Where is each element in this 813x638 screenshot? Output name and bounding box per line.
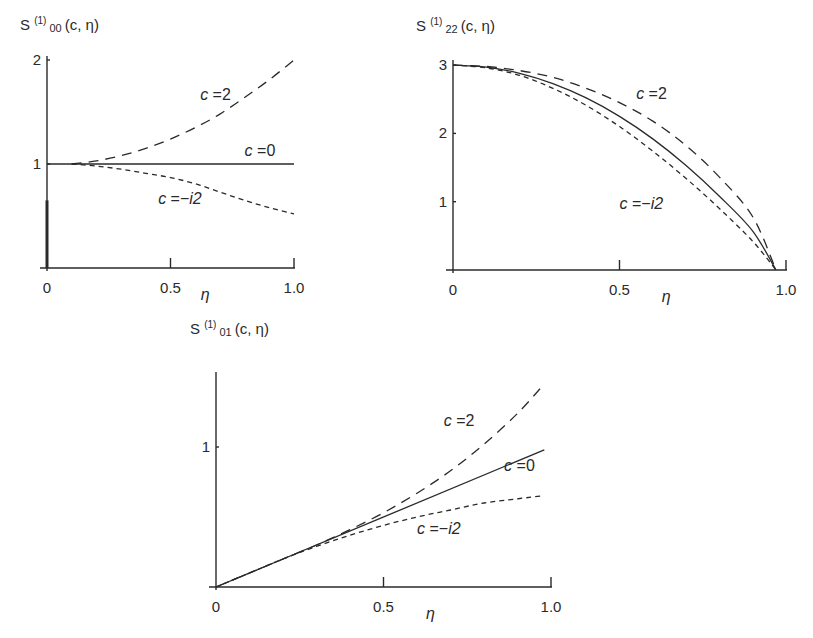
x-axis-label: η [426,605,435,622]
chart-s22: S (1) 22 (c, η)00.51.0η123c =2c =−i2 [416,16,796,305]
series-line-c-2 [216,384,544,587]
curve-label-part: =2 [452,412,475,429]
series-line-c-0 [453,65,776,270]
curve-label: c =0 [504,457,535,474]
curve-label-part: =0 [253,142,276,159]
series-line-c-i2 [216,496,541,587]
title-args: (c, η) [235,320,269,337]
chart-title: S (1) 01 (c, η) [190,319,269,338]
x-tick-label: 1.0 [284,279,305,296]
series-line-c-2 [453,65,776,270]
curve-label-part: c [620,195,628,212]
curve-label-part: =2 [644,85,667,102]
chart-title: S (1) 22 (c, η) [416,16,495,35]
x-axis-label: η [201,286,210,303]
x-tick-label: 1.0 [541,598,562,615]
curve-label-part: 2 [192,190,202,207]
curve-label: c =2 [200,86,231,103]
series-line-c-i2 [453,65,776,270]
x-tick-label: 0.5 [609,281,630,298]
chart-s01: S (1) 01 (c, η)00.51.0η1c =2c =0c =−i2 [190,319,561,622]
curve-label-part: c [245,142,253,159]
curve-label: c =0 [245,142,276,159]
title-base: S [416,17,430,34]
curve-label-part: =− [166,190,189,207]
curve-label-part: 2 [451,520,461,537]
curve-label-part: =− [425,520,448,537]
series-line-c-0 [216,450,544,587]
curve-label-part: c [200,86,208,103]
curve-label: c =−i2 [620,195,664,212]
title-superscript: (1) [430,16,442,27]
y-tick-label: 1 [202,438,210,455]
title-base: S [190,320,204,337]
x-tick-label: 0 [449,281,457,298]
title-args: (c, η) [461,17,495,34]
figure: S (1) 00 (c, η)00.51.0η12c =2c =0c =−i2S… [0,0,813,638]
curve-label-part: c [636,85,644,102]
y-tick-label: 1 [33,155,41,172]
title-args: (c, η) [65,16,99,33]
curve-label: c =−i2 [158,190,202,207]
title-subscript: 01 [216,326,234,338]
x-tick-label: 1.0 [776,281,797,298]
curve-label-part: =0 [512,457,535,474]
title-base: S [20,16,34,33]
x-axis-label: η [662,288,671,305]
x-tick-label: 0.5 [160,279,181,296]
curve-label-part: c [444,412,452,429]
chart-title: S (1) 00 (c, η) [20,15,99,34]
title-superscript: (1) [34,15,46,26]
y-tick-label: 2 [439,124,447,141]
curve-label: c =2 [444,412,475,429]
x-tick-label: 0 [212,598,220,615]
curve-label: c =2 [636,85,667,102]
title-subscript: 00 [46,22,64,34]
curve-label-part: =− [628,195,651,212]
y-tick-label: 3 [439,56,447,73]
y-tick-label: 2 [33,51,41,68]
x-tick-label: 0 [43,279,51,296]
title-superscript: (1) [204,319,216,330]
curve-label-part: =2 [208,86,231,103]
chart-s00: S (1) 00 (c, η)00.51.0η12c =2c =0c =−i2 [20,15,304,303]
title-subscript: 22 [442,23,460,35]
curve-label-part: c [158,190,166,207]
curve-label-part: c [504,457,512,474]
curve-label-part: 2 [653,195,663,212]
curve-label: c =−i2 [417,520,461,537]
y-tick-label: 1 [439,193,447,210]
curve-label-part: c [417,520,425,537]
x-tick-label: 0.5 [373,598,394,615]
